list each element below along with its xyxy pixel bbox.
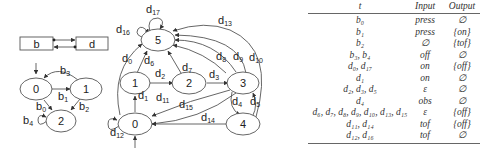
table-row: b₁ press {on} bbox=[300, 27, 486, 38]
label-b3: b3 bbox=[60, 64, 70, 77]
automaton-b: 0 1 2 b3 b1 b0 b2 b4 bbox=[20, 63, 102, 132]
svg-text:3: 3 bbox=[240, 77, 246, 89]
label-d4: d4 bbox=[232, 95, 242, 108]
automaton-d: 5 1 2 3 0 4 d17 d16 d0 d6 d2 d7 d3 d8 d9… bbox=[108, 3, 263, 148]
table-row: d₄ obs ∅ bbox=[300, 96, 486, 107]
label-b1: b1 bbox=[58, 90, 68, 103]
label-b4: b4 bbox=[23, 114, 33, 127]
header-output: Output bbox=[442, 1, 482, 12]
label-d6: d6 bbox=[144, 54, 154, 67]
label-d17: d17 bbox=[146, 3, 160, 16]
table-row: b₂ ∅ {tof} bbox=[300, 38, 486, 49]
label-d2: d2 bbox=[155, 67, 165, 80]
table-row: d₆, d₇, d₈, d₉, d₁₀, d₁₃, d₁₅ ε {off} bbox=[300, 107, 486, 118]
block-b-label: b bbox=[33, 38, 39, 50]
label-d1: d1 bbox=[138, 89, 148, 102]
diagram-canvas: b d 0 1 2 b3 b1 b0 b2 b4 bbox=[0, 0, 300, 156]
label-d5: d5 bbox=[250, 95, 260, 108]
table-row: b₃, b₄ off ∅ bbox=[300, 50, 486, 61]
block-diagram: b d bbox=[20, 37, 108, 50]
svg-text:2: 2 bbox=[58, 115, 64, 127]
label-d11: d11 bbox=[156, 91, 169, 104]
svg-text:0: 0 bbox=[33, 83, 39, 95]
table-row: d₁ on ∅ bbox=[300, 73, 486, 84]
header-input: Input bbox=[408, 1, 442, 12]
label-d7: d7 bbox=[182, 61, 192, 74]
table-row: d₁₂, d₁₆ tof ∅ bbox=[300, 130, 486, 141]
label-d15: d15 bbox=[179, 98, 193, 111]
label-d14: d14 bbox=[201, 111, 215, 124]
table-header: t Input Output bbox=[300, 1, 486, 12]
table-row: d₂, d₃, d₅ ε ∅ bbox=[300, 84, 486, 95]
table-bottom-rule bbox=[308, 143, 480, 144]
label-d0: d0 bbox=[122, 52, 132, 65]
label-d9: d9 bbox=[233, 50, 243, 63]
table-row: d₀, d₁₇ on {off} bbox=[300, 61, 486, 72]
edge-d7 bbox=[168, 51, 181, 73]
svg-text:5: 5 bbox=[155, 34, 161, 46]
svg-text:0: 0 bbox=[132, 118, 138, 130]
label-b0: b0 bbox=[36, 100, 46, 113]
label-b2: b2 bbox=[79, 100, 89, 113]
label-d16: d16 bbox=[116, 23, 130, 36]
svg-text:1: 1 bbox=[132, 77, 138, 89]
table-top-rule bbox=[308, 13, 480, 14]
table-row: b₀ press ∅ bbox=[300, 15, 486, 26]
transition-table: t Input Output b₀ press ∅ b₁ press {on} … bbox=[300, 0, 486, 156]
svg-text:1: 1 bbox=[83, 83, 89, 95]
label-d3: d3 bbox=[209, 68, 219, 81]
label-d10: d10 bbox=[249, 51, 263, 64]
svg-text:4: 4 bbox=[240, 118, 246, 130]
block-d-label: d bbox=[89, 38, 95, 50]
table-row: d₁₁, d₁₄ tof {off} bbox=[300, 119, 486, 130]
svg-text:2: 2 bbox=[186, 77, 192, 89]
label-d13: d13 bbox=[218, 14, 232, 27]
header-t: t bbox=[310, 1, 410, 12]
label-d8: d8 bbox=[216, 50, 226, 63]
